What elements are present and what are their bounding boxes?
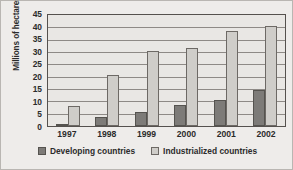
legend-entry: Industrialized countries <box>151 146 257 156</box>
bar <box>186 48 198 126</box>
x-axis-tick-label: 2002 <box>257 129 276 139</box>
bar-group <box>135 15 159 126</box>
y-axis-tick-label: 25 <box>33 60 42 68</box>
bar-groups <box>48 15 285 126</box>
x-axis-tick-label: 2000 <box>177 129 196 139</box>
x-axis-tick-label: 1998 <box>97 129 116 139</box>
bar <box>265 26 277 126</box>
y-axis-tick-label: 15 <box>33 85 42 93</box>
x-axis-tick-label: 2001 <box>217 129 236 139</box>
bar-group <box>253 15 277 126</box>
chart-legend: Developing countriesIndustrialized count… <box>1 146 293 156</box>
bar-group <box>214 15 238 126</box>
y-axis-tick-label: 30 <box>33 47 42 55</box>
legend-entry: Developing countries <box>38 146 135 156</box>
y-axis-tick-labels: 051015202530354045 <box>15 14 45 127</box>
y-axis-tick-label: 20 <box>33 73 42 81</box>
y-axis-tick-label: 10 <box>33 98 42 106</box>
bar <box>147 51 159 126</box>
bar-group <box>95 15 119 126</box>
bar <box>107 75 119 126</box>
bar <box>56 124 68 126</box>
y-axis-tick-label: 45 <box>33 10 42 18</box>
y-axis-tick-label: 5 <box>37 110 42 118</box>
bar <box>135 112 147 126</box>
bar <box>253 90 265 126</box>
x-axis-tick-label: 1997 <box>57 129 76 139</box>
bar-group <box>56 15 80 126</box>
bar <box>214 100 226 126</box>
bar-group <box>174 15 198 126</box>
y-axis-tick-label: 40 <box>33 22 42 30</box>
legend-swatch <box>151 147 159 155</box>
x-axis-tick-label: 1999 <box>137 129 156 139</box>
legend-label: Industrialized countries <box>163 146 257 156</box>
bar <box>95 117 107 126</box>
x-axis-tick-labels: 199719981999200020012002 <box>47 129 286 143</box>
plot-area <box>47 14 286 127</box>
legend-swatch <box>38 147 46 155</box>
legend-label: Developing countries <box>50 146 135 156</box>
bar <box>68 106 80 126</box>
bar <box>174 105 186 126</box>
y-axis-tick-label: 35 <box>33 35 42 43</box>
chart-figure: Millions of hectares 051015202530354045 … <box>0 0 293 170</box>
bar <box>226 31 238 126</box>
y-axis-tick-label: 0 <box>37 123 42 131</box>
